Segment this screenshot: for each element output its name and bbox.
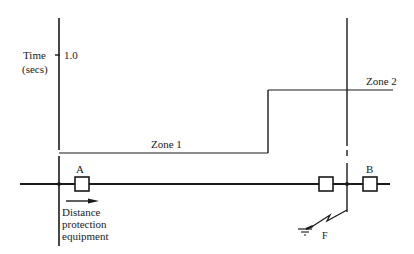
axis-tick-label: 1.0 [64,49,78,61]
equipment-label-1: Distance [62,206,100,218]
busbar-node-b [345,182,349,186]
direction-arrow-icon [88,199,99,204]
breaker-remote [319,177,333,191]
zone1-label: Zone 1 [151,138,182,150]
relay-b-label: B [366,163,373,175]
axis-label-units: (secs) [22,63,48,75]
equipment-label-3: equipment [62,230,108,242]
fault-lightning-icon [313,210,347,226]
fault-label: F [322,230,328,242]
relay-a-label: A [76,163,84,175]
axis-label-time: Time [23,49,46,61]
breaker-b [363,177,377,191]
breaker-a [75,177,89,191]
busbar-node-a [57,182,61,186]
equipment-label-2: protection [62,218,107,230]
zone2-label: Zone 2 [366,75,397,87]
